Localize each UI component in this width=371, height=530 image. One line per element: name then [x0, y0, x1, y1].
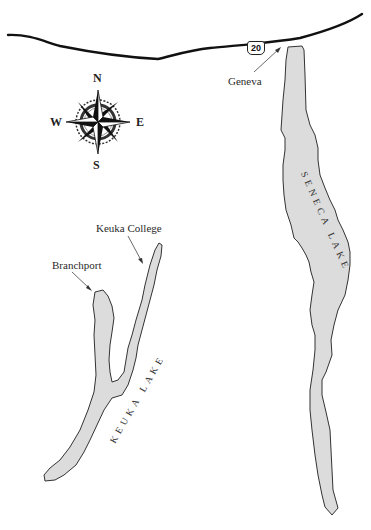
branchport-arrow	[72, 272, 92, 291]
place-label-keuka-college: Keuka College	[96, 222, 162, 234]
highway-20-road	[8, 14, 362, 59]
compass-south-label: S	[93, 158, 100, 173]
place-label-branchport: Branchport	[52, 259, 101, 271]
highway-number: 20	[251, 43, 261, 53]
keuka-lake-shape	[44, 243, 162, 481]
place-label-geneva: Geneva	[228, 75, 262, 87]
compass-rose-icon	[66, 90, 130, 154]
keuka-college-arrow	[128, 236, 143, 264]
seneca-lake-shape	[281, 46, 350, 515]
compass-north-label: N	[93, 71, 102, 86]
us-route-20-shield-icon: 20	[247, 41, 265, 55]
compass-west-label: W	[50, 115, 62, 130]
compass-east-label: E	[136, 115, 144, 130]
